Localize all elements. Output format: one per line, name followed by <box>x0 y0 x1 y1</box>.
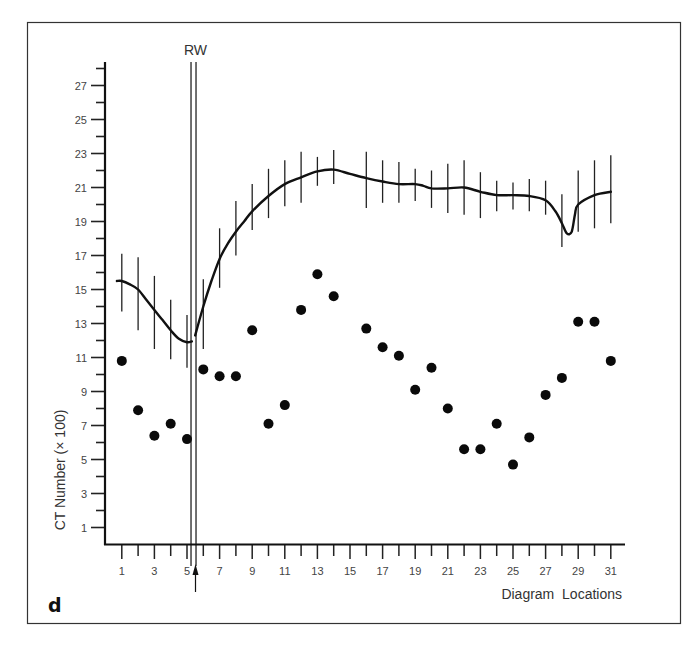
data-point <box>280 400 290 410</box>
y-tick-label: 25 <box>75 114 87 126</box>
x-tick-label: 19 <box>409 565 421 577</box>
data-point <box>329 291 339 301</box>
data-point <box>573 317 583 327</box>
x-tick-label: 29 <box>572 565 584 577</box>
y-tick-label: 5 <box>81 454 87 466</box>
x-tick-label: 15 <box>344 565 356 577</box>
y-tick-label: 15 <box>75 284 87 296</box>
data-point <box>606 356 616 366</box>
x-axis-title: Diagram Locations <box>501 586 622 602</box>
data-point <box>149 431 159 441</box>
y-tick-label: 27 <box>75 80 87 92</box>
x-tick-label: 17 <box>376 565 388 577</box>
data-point <box>394 351 404 361</box>
rw-label: RW <box>184 42 208 58</box>
data-point <box>231 371 241 381</box>
data-point <box>361 324 371 334</box>
x-tick-label: 31 <box>605 565 617 577</box>
arrow-up-icon <box>193 564 199 592</box>
data-point <box>590 317 600 327</box>
data-point <box>427 363 437 373</box>
y-tick-label: 23 <box>75 148 87 160</box>
x-tick-label: 7 <box>217 565 223 577</box>
data-point <box>410 385 420 395</box>
data-point <box>215 371 225 381</box>
data-point <box>198 364 208 374</box>
figure-panel: 13579111315171921232527 1357911131517192… <box>0 0 698 662</box>
data-point <box>133 405 143 415</box>
y-tick-label: 1 <box>81 522 87 534</box>
data-point <box>166 419 176 429</box>
y-tick-label: 19 <box>75 216 87 228</box>
data-point <box>117 356 127 366</box>
y-tick-label: 21 <box>75 182 87 194</box>
x-tick-label: 1 <box>119 565 125 577</box>
x-tick-label: 9 <box>249 565 255 577</box>
data-point <box>247 325 257 335</box>
data-point <box>475 444 485 454</box>
y-tick-label: 9 <box>81 386 87 398</box>
data-point <box>378 342 388 352</box>
data-point <box>508 460 518 470</box>
x-tick-label: 25 <box>507 565 519 577</box>
mean-curve-right <box>195 170 611 336</box>
y-tick-label: 17 <box>75 250 87 262</box>
x-tick-label: 13 <box>311 565 323 577</box>
scatter-points <box>117 269 616 469</box>
data-point <box>264 419 274 429</box>
data-point <box>443 404 453 414</box>
y-axis-ticks: 13579111315171921232527 <box>75 69 105 534</box>
y-axis-title: CT Number (× 100) <box>52 410 68 531</box>
y-tick-label: 13 <box>75 318 87 330</box>
data-point <box>557 373 567 383</box>
y-tick-label: 3 <box>81 488 87 500</box>
chart: 13579111315171921232527 1357911131517192… <box>0 0 698 662</box>
x-tick-label: 21 <box>442 565 454 577</box>
data-point <box>312 269 322 279</box>
data-point <box>524 432 534 442</box>
y-tick-label: 11 <box>76 352 87 364</box>
x-tick-label: 11 <box>279 565 290 577</box>
x-tick-label: 27 <box>539 565 551 577</box>
panel-label: d <box>48 594 62 616</box>
x-tick-label: 5 <box>184 565 190 577</box>
data-point <box>296 305 306 315</box>
data-point <box>459 444 469 454</box>
data-point <box>492 419 502 429</box>
y-tick-label: 7 <box>81 420 87 432</box>
x-tick-label: 3 <box>151 565 157 577</box>
data-point <box>541 390 551 400</box>
x-tick-label: 23 <box>474 565 486 577</box>
